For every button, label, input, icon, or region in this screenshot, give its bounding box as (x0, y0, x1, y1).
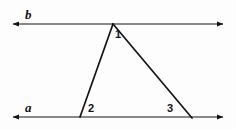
triangle-right-side (113, 24, 192, 118)
geometry-canvas (0, 0, 236, 129)
geometry-diagram: b a 1 2 3 (0, 0, 236, 129)
angle-label-1: 1 (115, 29, 121, 40)
line-label-b: b (25, 8, 32, 21)
line-label-a: a (25, 101, 32, 114)
triangle-left-side (80, 24, 113, 117)
angle-label-3: 3 (167, 103, 173, 114)
angle-label-2: 2 (88, 103, 94, 114)
